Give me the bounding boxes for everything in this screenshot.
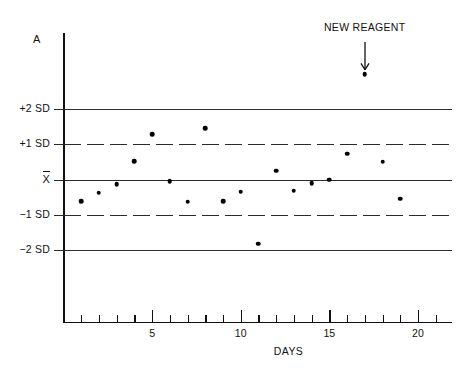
data-point <box>150 132 155 137</box>
x-axis-major-tick <box>329 310 330 322</box>
reference-line <box>64 109 452 110</box>
data-point <box>380 160 385 165</box>
x-axis-minor-tick <box>294 315 295 322</box>
reference-line-tick <box>54 250 65 251</box>
x-axis-major-tick <box>241 310 242 322</box>
reference-line <box>64 180 452 181</box>
x-axis-major-tick <box>418 310 419 322</box>
x-axis-minor-tick <box>400 315 401 322</box>
data-point <box>327 177 332 182</box>
x-axis-tick-label: 5 <box>149 327 155 339</box>
x-axis-minor-tick <box>383 315 384 322</box>
data-point <box>203 126 208 131</box>
reference-line-tick <box>54 180 65 181</box>
x-axis-minor-tick <box>276 315 277 322</box>
x-axis-minor-tick <box>99 315 100 322</box>
reference-line-tick <box>54 144 65 145</box>
x-axis-minor-tick <box>188 315 189 322</box>
data-point <box>362 72 367 77</box>
reference-line-tick <box>54 109 65 110</box>
reference-line-label: X <box>2 173 50 185</box>
data-point <box>398 197 403 202</box>
x-axis-major-tick <box>152 310 153 322</box>
y-axis-label: A <box>33 33 40 45</box>
down-arrow-icon <box>358 42 372 70</box>
x-axis-minor-tick <box>134 315 135 322</box>
reference-line-tick <box>54 215 65 216</box>
data-point <box>221 199 226 204</box>
x-axis-minor-tick <box>258 315 259 322</box>
x-axis-minor-tick <box>81 315 82 322</box>
data-point <box>274 168 279 173</box>
data-point <box>97 191 102 196</box>
x-axis-minor-tick <box>205 315 206 322</box>
x-axis-minor-tick <box>365 315 366 322</box>
reference-line <box>64 215 452 216</box>
x-axis-tick-label: 10 <box>235 327 247 339</box>
reference-line-label: −2 SD <box>2 243 50 255</box>
x-bar-glyph: X <box>42 173 50 185</box>
new-reagent-label: NEW REAGENT <box>324 21 405 33</box>
reference-line <box>64 144 452 145</box>
x-axis-minor-tick <box>223 315 224 322</box>
data-point <box>238 189 243 194</box>
data-point <box>79 199 84 204</box>
x-axis-label: DAYS <box>274 345 303 357</box>
reference-line-label: +1 SD <box>2 137 50 149</box>
reference-line-label: −1 SD <box>2 208 50 220</box>
data-point <box>132 159 137 164</box>
data-point <box>168 179 173 184</box>
data-point <box>309 181 314 186</box>
x-axis-minor-tick <box>436 315 437 322</box>
control-chart: A +2 SD+1 SDX−1 SD−2 SD 5101520 NEW REAG… <box>0 0 476 379</box>
x-axis-tick-label: 15 <box>323 327 335 339</box>
x-axis-minor-tick <box>117 315 118 322</box>
x-axis-minor-tick <box>312 315 313 322</box>
data-point <box>292 189 297 194</box>
data-point <box>185 199 190 204</box>
reference-line-label: +2 SD <box>2 102 50 114</box>
x-axis-minor-tick <box>347 315 348 322</box>
y-axis-line <box>63 33 65 323</box>
x-axis-minor-tick <box>170 315 171 322</box>
x-axis-tick-label: 20 <box>412 327 424 339</box>
data-point <box>114 182 119 187</box>
data-point <box>256 241 261 246</box>
data-point <box>345 151 350 156</box>
reference-line <box>64 250 452 251</box>
